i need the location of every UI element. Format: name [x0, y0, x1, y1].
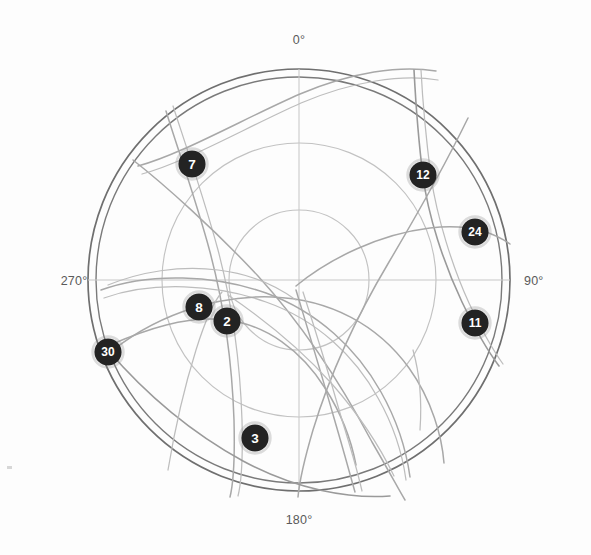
- satellite-prn-label: 11: [469, 316, 482, 330]
- skyplot-page: 7 12 24 8 2: [0, 0, 591, 555]
- satellite-marker-3[interactable]: 3: [240, 423, 271, 454]
- satellite-prn-label: 7: [188, 157, 196, 172]
- satellite-track-arc-11b: [303, 292, 362, 491]
- skyplot-grid: [88, 69, 510, 491]
- satellite-prn-label: 3: [251, 431, 259, 446]
- skyplot-canvas[interactable]: 7 12 24 8 2: [0, 0, 591, 555]
- satellite-track-arc-7: [298, 118, 468, 497]
- azimuth-label-east: 90°: [524, 274, 544, 288]
- satellite-marker-7[interactable]: 7: [177, 149, 208, 180]
- satellite-prn-label: 24: [468, 225, 482, 239]
- satellite-prn-label: 2: [223, 314, 231, 329]
- satellite-marker-11[interactable]: 11: [460, 308, 491, 339]
- satellite-marker-24[interactable]: 24: [460, 217, 491, 248]
- satellite-marker-12[interactable]: 12: [408, 160, 439, 191]
- satellite-marker-2[interactable]: 2: [212, 306, 243, 337]
- azimuth-label-north: 0°: [293, 33, 305, 47]
- azimuth-label-south: 180°: [286, 513, 313, 527]
- satellite-prn-label: 12: [416, 168, 430, 182]
- azimuth-label-west: 270°: [61, 274, 88, 288]
- satellite-prn-label: 30: [101, 345, 115, 359]
- satellite-marker-30[interactable]: 30: [93, 337, 124, 368]
- satellite-marker-8[interactable]: 8: [184, 292, 215, 323]
- scan-artifact-speck: [7, 466, 12, 469]
- satellite-track-arc-13: [413, 350, 421, 430]
- satellite-prn-label: 8: [195, 300, 203, 315]
